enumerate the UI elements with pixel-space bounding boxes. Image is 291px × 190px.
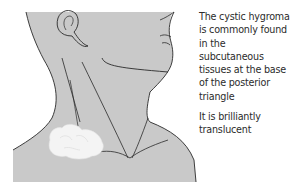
- caption-paragraph-translucency: It is brilliantly translucent: [199, 110, 291, 137]
- caption-paragraph-location: The cystic hygroma is commonly found in …: [199, 10, 291, 103]
- neck-diagram: [0, 0, 200, 190]
- neck-illustration: [0, 0, 200, 190]
- skin-region: [13, 12, 196, 182]
- figure-caption: The cystic hygroma is commonly found in …: [199, 10, 291, 144]
